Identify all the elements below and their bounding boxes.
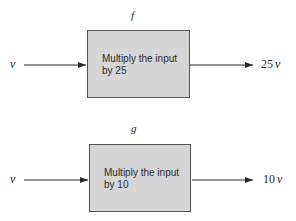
function-g-output-coef: 10: [263, 172, 275, 186]
function-g-output-label: 10v: [263, 172, 282, 187]
function-f-description: Multiply the inputby 25: [102, 53, 177, 77]
function-f-box: Multiply the inputby 25: [87, 30, 190, 98]
function-f-input-label: v: [10, 57, 15, 72]
function-f-input-var: v: [10, 57, 15, 71]
function-g-input-var: v: [10, 172, 15, 186]
function-f-output-coef: 25: [261, 57, 273, 71]
function-g-description-line2: by 10: [104, 179, 128, 190]
function-g-output-var: v: [277, 172, 282, 186]
function-g-description-line1: Multiply the input: [104, 167, 179, 178]
function-f-output-label: 25v: [261, 57, 280, 72]
function-g-description: Multiply the inputby 10: [104, 167, 179, 191]
function-g-label: g: [131, 122, 137, 134]
function-g-input-label: v: [10, 172, 15, 187]
function-f-description-line2: by 25: [102, 65, 126, 76]
function-f-output-var: v: [275, 57, 280, 71]
function-g-box: Multiply the inputby 10: [89, 144, 191, 212]
function-f-description-line1: Multiply the input: [102, 53, 177, 64]
function-f-label: f: [131, 9, 134, 21]
